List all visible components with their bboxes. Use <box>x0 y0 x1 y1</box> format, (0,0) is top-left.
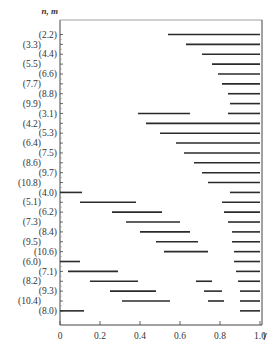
x-axis-title: γ <box>263 330 267 340</box>
y-axis-labels: (2.2)(3.3)(4.4)(5.5)(6.6)(7.7)(8.8)(9.9)… <box>18 30 57 317</box>
y-tick-label: (8.0) <box>39 306 57 317</box>
x-tick-label: 0.2 <box>94 331 106 341</box>
y-tick-label: (10.8) <box>18 178 41 189</box>
y-tick-label: (3.1) <box>39 109 57 120</box>
x-tick-label: 0.8 <box>214 331 226 341</box>
y-tick-label: (8.8) <box>39 89 57 100</box>
y-tick-label: (7.5) <box>39 148 57 159</box>
x-tick-label: 0.6 <box>174 331 186 341</box>
y-axis-title: n, m <box>41 6 58 16</box>
plot-bars <box>60 35 260 311</box>
x-tick-label: 0.4 <box>134 331 146 341</box>
y-tick-label: (2.2) <box>39 30 57 41</box>
x-tick-label: 0 <box>58 331 63 341</box>
y-tick-label: (8.4) <box>39 227 57 238</box>
y-tick-label: (5.3) <box>39 128 57 139</box>
y-tick-label: (7.1) <box>39 267 57 278</box>
y-tick-label: (6.6) <box>39 69 57 80</box>
y-tick-label: (9.7) <box>39 168 57 179</box>
x-axis-ticks: 00.20.40.60.81.0 <box>58 321 267 341</box>
y-tick-label: (4.0) <box>39 188 57 199</box>
y-tick-label: (6.2) <box>39 207 57 218</box>
y-tick-label: (9.3) <box>39 286 57 297</box>
chart: (2.2)(3.3)(4.4)(5.5)(6.6)(7.7)(8.8)(9.9)… <box>0 0 278 351</box>
y-tick-label: (10.4) <box>18 296 41 307</box>
y-tick-label: (4.4) <box>39 49 57 60</box>
